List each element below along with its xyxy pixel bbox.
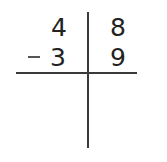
sum-line [16, 72, 137, 74]
minuend-tens-digit: 4 [49, 15, 69, 40]
minus-sign [28, 56, 40, 58]
subtrahend-tens-digit: 3 [48, 45, 68, 70]
answer-ones-cell[interactable] [108, 85, 128, 110]
place-value-divider [87, 12, 89, 148]
minuend-ones-digit: 8 [108, 15, 128, 40]
answer-tens-cell[interactable] [48, 85, 68, 110]
subtrahend-ones-digit: 9 [108, 45, 128, 70]
